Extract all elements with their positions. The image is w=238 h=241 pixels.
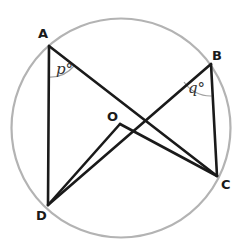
point-label-a: A <box>38 26 48 41</box>
point-label-c: C <box>221 177 231 192</box>
point-label-o: O <box>107 109 118 124</box>
angle-label-q: q° <box>188 79 205 97</box>
angle-label-p: p° <box>56 60 73 78</box>
point-label-d: D <box>36 208 47 223</box>
circle-outline <box>12 19 231 238</box>
segment-bc <box>211 64 217 176</box>
segment-oc <box>120 124 217 176</box>
point-label-b: B <box>212 48 222 63</box>
segment-od <box>48 124 120 205</box>
segment-ad <box>48 46 49 205</box>
segment-bd <box>48 64 211 205</box>
circle-diagram: A B C D O p° q° <box>0 0 238 241</box>
segment-ac <box>49 46 217 176</box>
